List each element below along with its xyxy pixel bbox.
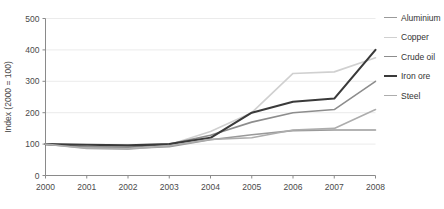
legend-label-steel: Steel [401, 92, 420, 101]
legend-label-iron-ore: Iron ore [401, 72, 430, 81]
y-axis: 0100200300400500 [25, 14, 45, 181]
x-axis: 200020012002200320042005200620072008 [36, 176, 385, 192]
chart-legend: Aluminium Copper Crude oil Iron ore Stee… [384, 8, 444, 106]
x-tick-label: 2004 [201, 182, 220, 192]
legend-label-copper: Copper [401, 33, 429, 42]
x-tick-label: 2000 [36, 182, 55, 192]
data-series-group [46, 50, 376, 149]
y-tick-label: 200 [25, 108, 39, 118]
legend-item-crude-oil[interactable]: Crude oil [384, 47, 444, 67]
x-tick-label: 2005 [242, 182, 261, 192]
x-tick-label: 2003 [160, 182, 179, 192]
y-tick-label: 500 [25, 14, 39, 24]
y-tick-label: 400 [25, 45, 39, 55]
legend-label-aluminium: Aluminium [401, 14, 441, 23]
legend-item-copper[interactable]: Copper [384, 28, 444, 48]
legend-swatch-copper [384, 37, 397, 38]
legend-item-aluminium[interactable]: Aluminium [384, 8, 444, 28]
legend-label-crude-oil: Crude oil [401, 53, 435, 62]
series-line-steel [46, 110, 376, 150]
y-tick-label: 100 [25, 139, 39, 149]
y-axis-title: Index (2000 = 100) [3, 61, 13, 133]
y-tick-label: 300 [25, 76, 39, 86]
x-tick-label: 2006 [284, 182, 303, 192]
x-tick-label: 2008 [366, 182, 385, 192]
legend-item-iron-ore[interactable]: Iron ore [384, 67, 444, 87]
legend-swatch-iron-ore [384, 75, 397, 77]
chart-plot-area: 0100200300400500 20002001200220032004200… [0, 0, 444, 209]
x-tick-label: 2007 [325, 182, 344, 192]
grid-lines [46, 19, 376, 145]
legend-item-steel[interactable]: Steel [384, 86, 444, 106]
legend-swatch-crude-oil [384, 56, 397, 57]
y-tick-label: 0 [35, 171, 40, 181]
legend-swatch-steel [384, 95, 397, 96]
x-tick-label: 2001 [77, 182, 96, 192]
x-tick-label: 2002 [119, 182, 138, 192]
y-axis-label-text: Index (2000 = 100) [3, 61, 13, 133]
legend-swatch-aluminium [384, 17, 397, 18]
series-line-copper [46, 58, 376, 148]
line-chart: 0100200300400500 20002001200220032004200… [0, 0, 444, 209]
